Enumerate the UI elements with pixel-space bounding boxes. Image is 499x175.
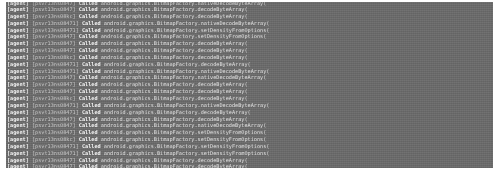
log-line: [agent] [psvr13ns0847] Called android.gr… (7, 33, 493, 40)
log-agent-tag: [agent] (7, 116, 29, 122)
log-device-id: [psvr13ns08471] (32, 61, 79, 67)
log-called-keyword: Called (79, 88, 98, 94)
log-called-keyword: Called (82, 143, 101, 149)
log-method-signature: android.graphics.BitmapFactory.setDensit… (101, 129, 263, 135)
log-open-paren: ( (266, 143, 269, 149)
log-open-paren: ( (266, 102, 269, 108)
log-called-keyword: Called (79, 95, 98, 101)
log-agent-tag: [agent] (7, 109, 29, 115)
log-line: [agent] [psvt13ns08471] Called android.g… (7, 68, 493, 75)
log-device-id: [psvr13ns08471] (32, 143, 79, 149)
log-called-keyword: Called (79, 2, 98, 6)
log-method-signature: android.graphics.BitmapFactory.nativeDec… (104, 20, 266, 26)
log-open-paren: ( (244, 116, 247, 122)
log-agent-tag: [agent] (7, 61, 29, 67)
log-called-keyword: Called (79, 6, 98, 12)
log-line-list: [agent] [psvr13ns0847] Called android.gr… (7, 2, 493, 168)
log-line: [agent] [psvr13ns0847] Called android.gr… (7, 122, 493, 129)
terminal-log-panel[interactable]: [agent] [psvr13ns0847] Called android.gr… (6, 2, 493, 168)
log-method-signature: android.graphics.BitmapFactory.setDensit… (104, 143, 266, 149)
log-called-keyword: Called (79, 74, 98, 80)
log-method-signature: android.graphics.BitmapFactory.decodeByt… (101, 6, 245, 12)
log-line: [agent] [psvr13ns08471] Called android.g… (7, 20, 493, 27)
log-agent-tag: [agent] (7, 157, 29, 163)
log-open-paren: ( (263, 33, 266, 39)
log-device-id: [psvr13ns0847] (32, 157, 76, 163)
log-open-paren: ( (263, 74, 266, 80)
log-device-id: [psvr13ns08471] (32, 20, 79, 26)
log-called-keyword: Called (82, 150, 101, 156)
log-method-signature: android.graphics.BitmapFactory.nativeDec… (101, 74, 263, 80)
log-called-keyword: Called (79, 136, 98, 142)
log-device-id: [psvr13ns0847] (32, 116, 76, 122)
log-method-signature: android.graphics.BitmapFactory.decodeByt… (104, 61, 248, 67)
log-agent-tag: [agent] (7, 2, 29, 6)
log-called-keyword: Called (79, 163, 98, 168)
log-agent-tag: [agent] (7, 68, 29, 74)
log-agent-tag: [agent] (7, 54, 29, 60)
log-line: [agent] [psvt13ns0847] Called android.gr… (7, 6, 493, 13)
log-line: [agent] [psvr13ns08kc] Called android.gr… (7, 95, 493, 102)
log-line: [agent] [psvr13ns0847] Called android.gr… (7, 163, 493, 168)
screenshot-root: [agent] [psvr13ns0847] Called android.gr… (0, 0, 499, 175)
log-device-id: [psvr13ns0847] (32, 40, 76, 46)
log-line: [agent] [psvt13ns08471] Called android.g… (7, 150, 493, 157)
log-method-signature: android.graphics.BitmapFactory.decodeByt… (101, 88, 245, 94)
log-open-paren: ( (244, 47, 247, 53)
log-agent-tag: [agent] (7, 88, 29, 94)
log-called-keyword: Called (82, 20, 101, 26)
log-open-paren: ( (263, 136, 266, 142)
log-agent-tag: [agent] (7, 47, 29, 53)
log-called-keyword: Called (82, 68, 101, 74)
log-device-id: [psvr13ns0847] (32, 74, 76, 80)
log-device-id: [psvr13ns0847] (32, 122, 76, 128)
log-method-signature: android.graphics.BitmapFactory.decodeByt… (101, 163, 245, 168)
log-open-paren: ( (266, 150, 269, 156)
log-open-paren: ( (266, 27, 269, 33)
log-device-id: [psvr13ns08kc] (32, 95, 76, 101)
log-agent-tag: [agent] (7, 40, 29, 46)
log-open-paren: ( (244, 54, 247, 60)
log-device-id: [psvt13ns0847] (32, 129, 76, 135)
log-open-paren: ( (244, 88, 247, 94)
log-called-keyword: Called (79, 13, 98, 19)
log-method-signature: android.graphics.BitmapFactory.decodeByt… (101, 40, 245, 46)
log-agent-tag: [agent] (7, 163, 29, 168)
log-called-keyword: Called (79, 40, 98, 46)
log-method-signature: android.graphics.BitmapFactory.nativeDec… (104, 102, 266, 108)
log-open-paren: ( (266, 68, 269, 74)
log-called-keyword: Called (79, 81, 98, 87)
log-method-signature: android.graphics.BitmapFactory.decodeByt… (101, 116, 245, 122)
log-called-keyword: Called (79, 122, 98, 128)
log-agent-tag: [agent] (7, 81, 29, 87)
log-method-signature: android.graphics.BitmapFactory.setDensit… (101, 33, 263, 39)
log-called-keyword: Called (79, 54, 98, 60)
log-device-id: [psvt13ns0847] (32, 6, 76, 12)
log-line: [agent] [psvr13ns08471] Called android.g… (7, 61, 493, 68)
log-method-signature: android.graphics.BitmapFactory.nativeDec… (101, 2, 263, 6)
log-device-id: [psvt13ns08471] (32, 150, 79, 156)
log-line: [agent] [psvt13ns08471] Called android.g… (7, 109, 493, 116)
log-line: [agent] [psvt13ns0847] Called android.gr… (7, 47, 493, 54)
log-line: [agent] [psvt13ns0847] Called android.gr… (7, 88, 493, 95)
log-line: [agent] [psvt13ns0847] Called android.gr… (7, 129, 493, 136)
log-method-signature: android.graphics.BitmapFactory.decodeByt… (101, 95, 245, 101)
log-agent-tag: [agent] (7, 27, 29, 33)
log-line: [agent] [psvr13ns08kc] Called android.gr… (7, 136, 493, 143)
log-called-keyword: Called (79, 129, 98, 135)
log-open-paren: ( (244, 81, 247, 87)
log-agent-tag: [agent] (7, 74, 29, 80)
log-agent-tag: [agent] (7, 13, 29, 19)
log-line: [agent] [psvt13ns08471] Called android.g… (7, 27, 493, 34)
log-method-signature: android.graphics.BitmapFactory.decodeByt… (101, 13, 245, 19)
log-agent-tag: [agent] (7, 150, 29, 156)
log-agent-tag: [agent] (7, 33, 29, 39)
log-called-keyword: Called (79, 157, 98, 163)
log-device-id: [psvr13ns0847] (32, 81, 76, 87)
log-device-id: [psvr13ns0847] (32, 163, 76, 168)
log-method-signature: android.graphics.BitmapFactory.nativeDec… (101, 122, 263, 128)
log-agent-tag: [agent] (7, 6, 29, 12)
log-agent-tag: [agent] (7, 95, 29, 101)
log-method-signature: android.graphics.BitmapFactory.decodeByt… (104, 109, 248, 115)
log-device-id: [psvt13ns08471] (32, 27, 79, 33)
